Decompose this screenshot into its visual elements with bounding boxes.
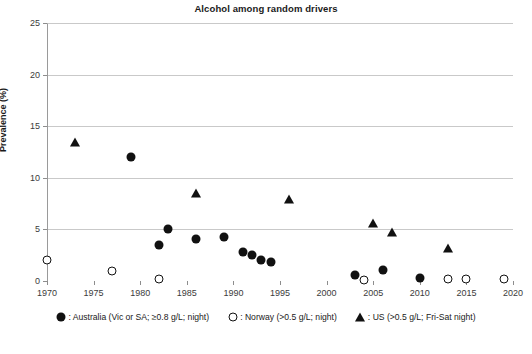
plot-frame	[47, 23, 513, 281]
data-point	[164, 225, 173, 234]
x-tick-mark	[233, 281, 234, 285]
x-tick-mark	[280, 281, 281, 285]
x-axis-line	[47, 23, 513, 24]
y-tick-label: 15	[30, 121, 40, 131]
data-point	[126, 153, 135, 162]
x-tick-label: 1985	[177, 288, 197, 298]
data-point	[350, 270, 359, 279]
gridline	[47, 229, 513, 230]
x-tick-label: 2015	[456, 288, 476, 298]
data-point	[378, 265, 387, 274]
legend-item: : US (>0.5 g/L; Fri-Sat night)	[356, 312, 476, 322]
marker-filled-triangle	[355, 313, 365, 322]
x-tick-mark	[327, 281, 328, 285]
data-point	[238, 248, 247, 257]
y-axis-title: Prevalence (%)	[0, 88, 8, 152]
x-tick-mark	[140, 281, 141, 285]
x-tick-label: 1980	[130, 288, 150, 298]
data-point	[462, 274, 471, 283]
legend-item: : Australia (Vic or SA; ≥0.8 g/L; night)	[56, 312, 209, 322]
x-tick-mark	[94, 281, 95, 285]
gridline	[47, 126, 513, 127]
data-point	[443, 274, 452, 283]
y-tick-mark	[43, 75, 47, 76]
chart-title: Alcohol among random drivers	[0, 3, 532, 14]
chart-legend: : Australia (Vic or SA; ≥0.8 g/L; night)…	[0, 312, 532, 322]
gridline	[47, 75, 513, 76]
x-tick-mark	[47, 281, 48, 285]
y-tick-label: 20	[30, 70, 40, 80]
y-tick-label: 25	[30, 18, 40, 28]
data-point	[368, 219, 378, 228]
gridline	[47, 178, 513, 179]
plot-area: 0510152025 19701975198019851990199520002…	[47, 23, 513, 281]
x-tick-mark	[513, 281, 514, 285]
data-point	[248, 251, 257, 260]
chart-figure: Alcohol among random drivers 0510152025 …	[0, 0, 532, 354]
data-point	[220, 232, 229, 241]
legend-swatch-filled-circle-icon	[56, 312, 65, 322]
y-tick-label: 10	[30, 173, 40, 183]
x-tick-label: 2010	[410, 288, 430, 298]
data-point	[70, 137, 80, 146]
x-tick-label: 1995	[270, 288, 290, 298]
data-point	[266, 258, 275, 267]
x-tick-label: 1970	[37, 288, 57, 298]
y-tick-label: 0	[35, 276, 40, 286]
data-point	[43, 256, 52, 265]
legend-swatch-filled-triangle-icon	[356, 312, 365, 322]
x-tick-mark	[187, 281, 188, 285]
data-point	[284, 195, 294, 204]
data-point	[443, 243, 453, 252]
data-point	[257, 256, 266, 265]
legend-label: : Australia (Vic or SA; ≥0.8 g/L; night)	[68, 312, 209, 322]
data-point	[108, 266, 117, 275]
marker-filled-circle	[56, 313, 65, 322]
data-point	[499, 274, 508, 283]
y-tick-mark	[43, 126, 47, 127]
y-tick-mark	[43, 229, 47, 230]
x-tick-label: 2005	[363, 288, 383, 298]
legend-swatch-open-circle-icon	[228, 312, 237, 322]
data-point	[191, 189, 201, 198]
legend-label: : Norway (>0.5 g/L; night)	[240, 312, 337, 322]
y-tick-label: 5	[35, 224, 40, 234]
data-point	[154, 240, 163, 249]
data-point	[387, 228, 397, 237]
data-point	[192, 234, 201, 243]
x-tick-label: 2000	[317, 288, 337, 298]
x-tick-label: 1990	[223, 288, 243, 298]
marker-open-circle	[228, 313, 237, 322]
legend-label: : US (>0.5 g/L; Fri-Sat night)	[368, 312, 476, 322]
legend-item: : Norway (>0.5 g/L; night)	[228, 312, 337, 322]
y-tick-mark	[43, 178, 47, 179]
x-tick-label: 1975	[84, 288, 104, 298]
data-point	[154, 274, 163, 283]
x-tick-mark	[373, 281, 374, 285]
x-tick-label: 2020	[503, 288, 523, 298]
data-point	[415, 273, 424, 282]
data-point	[359, 275, 368, 284]
